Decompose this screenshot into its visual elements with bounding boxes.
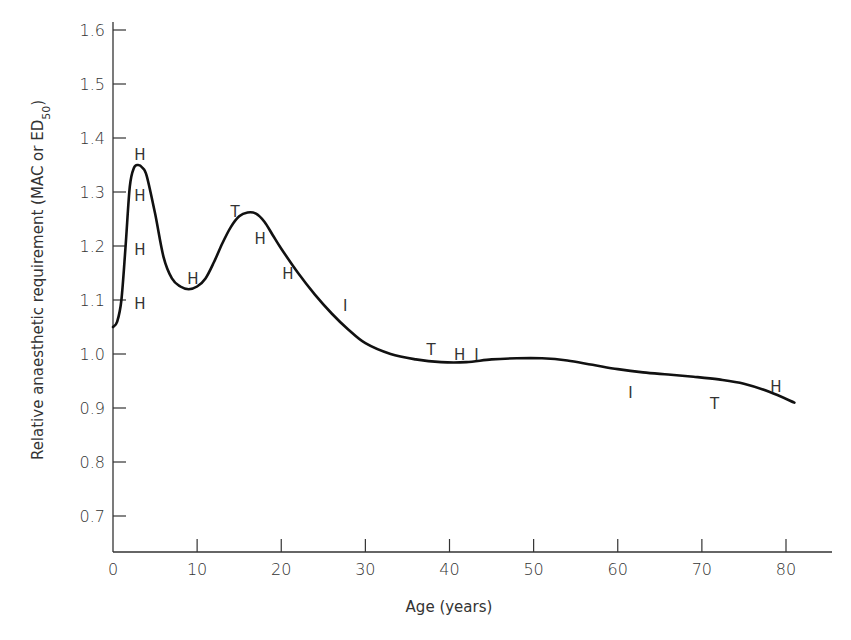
- x-tick-label: 0: [108, 560, 118, 579]
- y-tick-label: 1.4: [80, 129, 105, 148]
- study-marker-h: H: [134, 295, 145, 313]
- x-tick-label: 20: [271, 560, 291, 579]
- x-axis-title: Age (years): [406, 598, 493, 616]
- study-marker-t: T: [229, 203, 240, 221]
- x-tick-label: 10: [187, 560, 207, 579]
- study-marker-h: H: [454, 346, 465, 364]
- study-marker-h: H: [255, 230, 266, 248]
- study-marker-h: H: [134, 187, 145, 205]
- study-marker-i: I: [474, 346, 478, 364]
- x-tick-label: 70: [692, 560, 712, 579]
- y-tick-label: 1.3: [80, 183, 105, 202]
- data-curve: [113, 165, 794, 403]
- y-tick-label: 1.0: [80, 345, 105, 364]
- y-tick-label: 1.2: [80, 237, 105, 256]
- study-marker-h: H: [134, 241, 145, 259]
- data-markers: HHHHHTHHITHIITH: [134, 146, 781, 412]
- y-tick-label: 0.8: [80, 453, 105, 472]
- y-tick-label: 0.9: [80, 399, 105, 418]
- x-tick-label: 80: [776, 560, 796, 579]
- y-axis-title: Relative anaesthetic requirement (MAC or…: [29, 100, 53, 460]
- y-tick-label: 1.5: [80, 75, 105, 94]
- x-axis: 01020304050607080: [108, 539, 832, 579]
- x-tick-label: 60: [608, 560, 628, 579]
- study-marker-i: I: [628, 384, 632, 402]
- y-axis: 0.70.80.91.01.11.21.31.41.51.6: [80, 21, 126, 552]
- study-marker-h: H: [134, 146, 145, 164]
- x-axis-ticks: 01020304050607080: [108, 539, 796, 579]
- y-tick-label: 1.6: [80, 21, 105, 40]
- y-axis-ticks: 0.70.80.91.01.11.21.31.41.51.6: [80, 21, 126, 526]
- x-tick-label: 40: [439, 560, 459, 579]
- x-tick-label: 30: [355, 560, 375, 579]
- y-tick-label: 0.7: [80, 507, 105, 526]
- y-tick-label: 1.1: [80, 291, 105, 310]
- x-tick-label: 50: [523, 560, 543, 579]
- study-marker-h: H: [282, 265, 293, 283]
- line-chart: 0.70.80.91.01.11.21.31.41.51.6 010203040…: [0, 0, 851, 640]
- study-marker-h: H: [187, 270, 198, 288]
- study-marker-h: H: [770, 378, 781, 396]
- study-marker-i: I: [343, 297, 347, 315]
- study-marker-t: T: [425, 341, 436, 359]
- study-marker-t: T: [709, 395, 720, 413]
